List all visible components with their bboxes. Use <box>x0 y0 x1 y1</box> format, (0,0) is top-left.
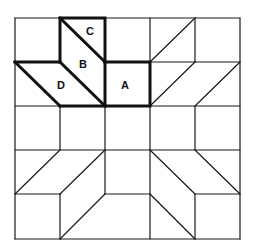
diag-tr-2 <box>150 62 195 106</box>
diag-bl-3 <box>60 194 105 239</box>
diag-tr-1 <box>150 18 195 62</box>
label-b: B <box>79 58 87 70</box>
diag-tr-3 <box>195 62 240 106</box>
diag-br-2 <box>195 150 240 194</box>
quilt-block-diagram: C B D A <box>0 0 253 251</box>
diag-bl-2 <box>60 150 105 194</box>
diag-br-1 <box>150 150 195 194</box>
label-a: A <box>121 79 129 91</box>
piece-c-diagonal <box>60 18 105 62</box>
diagonal-lines <box>15 18 240 239</box>
label-c: C <box>86 25 94 37</box>
grid-lines <box>15 18 240 239</box>
piece-labels: C B D A <box>57 25 129 91</box>
diag-br-3 <box>150 194 195 239</box>
label-d: D <box>57 79 65 91</box>
piece-d-diagonal-left <box>15 62 60 106</box>
diag-bl-1 <box>15 150 60 194</box>
